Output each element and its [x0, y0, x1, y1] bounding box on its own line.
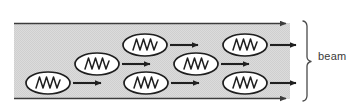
- beam-bracket-icon: [303, 21, 311, 101]
- beam-diagram-figure: beam: [0, 0, 363, 110]
- beam-label: beam: [318, 50, 346, 62]
- beam-diagram-canvas: [0, 0, 363, 110]
